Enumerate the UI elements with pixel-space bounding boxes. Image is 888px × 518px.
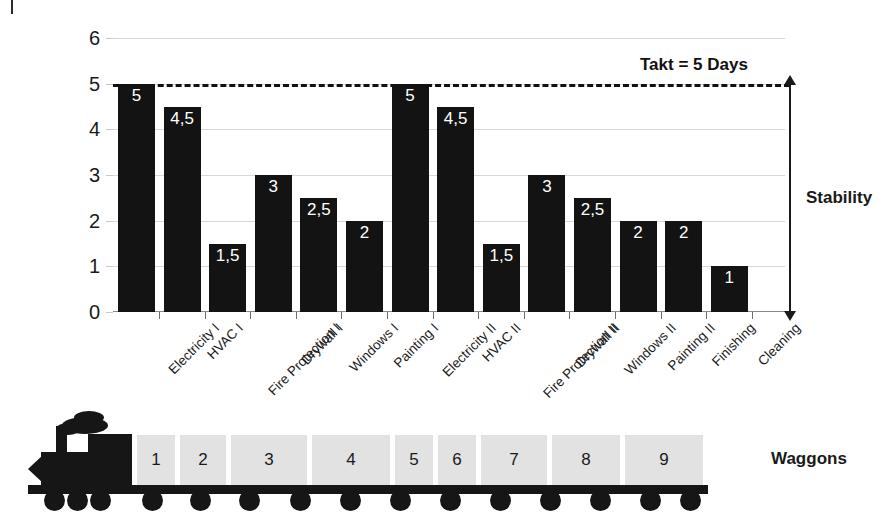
waggon: 1 xyxy=(137,435,175,485)
x-tick-mark xyxy=(341,312,342,319)
bar: 2 xyxy=(665,221,702,312)
waggon: 6 xyxy=(438,435,476,485)
x-tick-mark xyxy=(478,312,479,319)
x-tick-mark xyxy=(205,312,206,319)
bar-value-label: 1,5 xyxy=(209,247,246,265)
train-illustration: 123456789 Waggons xyxy=(0,404,888,518)
wheel-icon xyxy=(680,490,701,511)
y-tick-label: 0 xyxy=(89,302,100,322)
bar: 1 xyxy=(711,266,748,312)
bar-series: 54,51,532,5254,51,532,5221 xyxy=(113,38,785,312)
bar-value-label: 3 xyxy=(255,178,292,196)
y-tick-mark xyxy=(106,84,113,85)
wheel-icon xyxy=(540,490,561,511)
y-tick-mark xyxy=(106,266,113,267)
bar-value-label: 4,5 xyxy=(164,110,201,128)
bar-value-label: 1 xyxy=(711,269,748,287)
arrow-head-up-icon xyxy=(784,75,796,85)
waggon-number: 8 xyxy=(581,450,590,470)
y-tick-mark xyxy=(106,175,113,176)
waggon-number: 9 xyxy=(659,450,668,470)
y-tick-label: 2 xyxy=(89,211,100,231)
x-tick-mark xyxy=(615,312,616,319)
wheel-icon xyxy=(490,490,511,511)
waggon: 7 xyxy=(481,435,547,485)
y-tick-mark xyxy=(106,312,113,313)
wheel-icon xyxy=(390,490,411,511)
bar-value-label: 2,5 xyxy=(574,201,611,219)
bar-value-label: 3 xyxy=(528,178,565,196)
x-tick-mark xyxy=(661,312,662,319)
bar: 2 xyxy=(346,221,383,312)
x-tick-mark xyxy=(296,312,297,319)
waggon: 8 xyxy=(552,435,620,485)
waggon-number: 5 xyxy=(409,450,418,470)
stability-label: Stability xyxy=(806,188,872,208)
wheel-icon xyxy=(440,490,461,511)
bar: 3 xyxy=(255,175,292,312)
x-tick-mark xyxy=(250,312,251,319)
waggon-number: 4 xyxy=(346,450,355,470)
x-tick-mark xyxy=(752,312,753,319)
waggon: 2 xyxy=(180,435,226,485)
y-tick-label: 4 xyxy=(89,119,100,139)
y-tick-mark xyxy=(106,38,113,39)
x-tick-mark xyxy=(387,312,388,319)
bar: 4,5 xyxy=(437,107,474,313)
x-axis-category-label: Drywall I xyxy=(299,321,345,367)
waggons-label: Waggons xyxy=(771,449,847,469)
wheel-icon xyxy=(340,490,361,511)
takt-line xyxy=(113,84,790,87)
takt-label: Takt = 5 Days xyxy=(640,55,748,75)
waggon: 5 xyxy=(395,435,433,485)
stability-arrow xyxy=(789,84,791,312)
bar-value-label: 4,5 xyxy=(437,110,474,128)
waggon-number: 2 xyxy=(198,450,207,470)
waggon-number: 7 xyxy=(509,450,518,470)
x-axis-category-label: Drywall II xyxy=(574,321,623,370)
arrow-head-down-icon xyxy=(784,311,796,321)
bar-value-label: 5 xyxy=(118,87,155,105)
bar-value-label: 2,5 xyxy=(300,201,337,219)
wheel-icon xyxy=(44,490,65,511)
x-tick-mark xyxy=(706,312,707,319)
x-tick-mark xyxy=(159,312,160,319)
bar-value-label: 2 xyxy=(620,224,657,242)
wheel-icon xyxy=(67,490,88,511)
wheel-icon xyxy=(640,490,661,511)
y-tick-mark xyxy=(106,129,113,130)
waggon: 4 xyxy=(312,435,390,485)
y-tick-mark xyxy=(106,221,113,222)
bar: 2,5 xyxy=(574,198,611,312)
waggon: 3 xyxy=(231,435,307,485)
waggon-number: 6 xyxy=(452,450,461,470)
bar: 1,5 xyxy=(209,244,246,313)
smoke-puff-icon xyxy=(56,423,80,435)
x-axis-category-label: Cleaning xyxy=(755,321,802,368)
x-axis-category-label: Finishing xyxy=(710,321,758,369)
plot-area: 0123456 54,51,532,5254,51,532,5221 Elect… xyxy=(113,38,785,312)
bar-value-label: 1,5 xyxy=(483,247,520,265)
x-tick-mark xyxy=(569,312,570,319)
waggon-number: 3 xyxy=(264,450,273,470)
waggon-number: 1 xyxy=(151,450,160,470)
x-axis-category-label: Windows I xyxy=(347,321,401,375)
y-tick-label: 5 xyxy=(89,74,100,94)
x-tick-mark xyxy=(433,312,434,319)
wheel-icon xyxy=(239,490,260,511)
bar: 2,5 xyxy=(300,198,337,312)
wheel-icon xyxy=(290,490,311,511)
wheel-icon xyxy=(190,490,211,511)
bar: 4,5 xyxy=(164,107,201,313)
bar: 2 xyxy=(620,221,657,312)
page-crop-mark xyxy=(11,0,13,14)
wheel-icon xyxy=(590,490,611,511)
bar-value-label: 2 xyxy=(665,224,702,242)
x-tick-mark xyxy=(524,312,525,319)
chart-figure: 0123456 54,51,532,5254,51,532,5221 Elect… xyxy=(0,0,888,518)
waggon: 9 xyxy=(625,435,703,485)
bar: 3 xyxy=(528,175,565,312)
wheel-icon xyxy=(90,490,111,511)
y-tick-label: 3 xyxy=(89,165,100,185)
bar-value-label: 5 xyxy=(392,87,429,105)
